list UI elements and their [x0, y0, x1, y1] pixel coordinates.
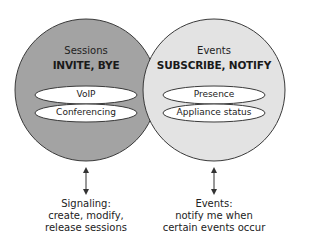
events-caption: Events: notify me when certain events oc…: [149, 198, 279, 234]
sessions-caption: Signaling: create, modify, release sessi…: [26, 198, 146, 234]
sessions-item-conferencing: Conferencing: [36, 107, 136, 117]
sessions-title: Sessions: [36, 45, 136, 56]
sessions-caption-line-2: create, modify,: [26, 210, 146, 222]
sessions-item-voip: VoIP: [36, 89, 136, 99]
sessions-caption-line-1: Signaling:: [26, 198, 146, 210]
events-caption-line-3: certain events occur: [149, 222, 279, 234]
events-item-presence: Presence: [164, 89, 264, 99]
sessions-methods: INVITE, BYE: [26, 59, 146, 71]
sessions-caption-line-3: release sessions: [26, 222, 146, 234]
events-caption-line-1: Events:: [149, 198, 279, 210]
events-item-appliance-status: Appliance status: [164, 107, 264, 117]
events-caption-line-2: notify me when: [149, 210, 279, 222]
events-methods: SUBSCRIBE, NOTIFY: [144, 59, 284, 71]
events-title: Events: [164, 45, 264, 56]
